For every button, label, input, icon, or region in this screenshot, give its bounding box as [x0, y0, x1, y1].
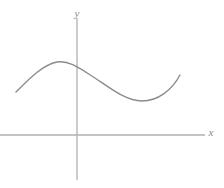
plot-figure: y x [0, 0, 224, 188]
plot-background [0, 0, 224, 188]
plot-canvas: y x [0, 0, 224, 188]
y-axis-label: y [74, 7, 80, 19]
x-axis-label: x [208, 126, 214, 138]
